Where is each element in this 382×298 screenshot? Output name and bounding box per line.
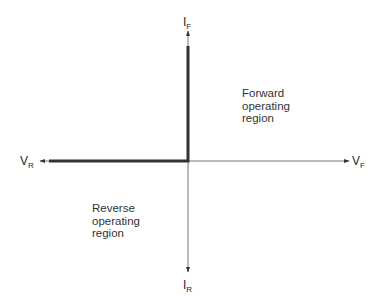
ideal-diode-characteristic [49,46,188,161]
axis-label-vf: VF [352,155,365,172]
forward-region-label: Forward operating region [242,87,290,125]
axis-label-ir: IR [183,279,192,296]
axis-label-if: IF [183,16,191,33]
reverse-region-label: Reverse operating region [92,202,140,240]
diagram-canvas [0,0,382,298]
axis-label-vr: VR [20,155,34,172]
